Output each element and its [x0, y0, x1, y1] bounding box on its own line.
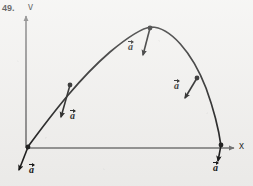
acceleration-label-5: a — [213, 162, 218, 173]
acceleration-label-3: a — [128, 41, 133, 52]
acceleration-vector-1 — [19, 147, 28, 170]
acceleration-vector-3 — [143, 28, 150, 55]
y-axis-label: v — [28, 1, 33, 12]
acceleration-label-1-text: a — [29, 165, 34, 175]
acceleration-label-1: a — [29, 164, 34, 175]
acceleration-label-4: a — [174, 80, 179, 91]
acceleration-label-4-text: a — [174, 81, 179, 91]
acceleration-label-2: a — [70, 110, 75, 121]
trajectory-diagram-svg — [0, 0, 253, 186]
projectile-motion-figure: 49. v x a a a a a — [0, 0, 253, 186]
x-axis-label: x — [239, 140, 244, 151]
acceleration-vector-4 — [185, 78, 197, 98]
acceleration-label-3-text: a — [128, 42, 133, 52]
acceleration-label-2-text: a — [70, 111, 75, 121]
trajectory-points — [26, 26, 224, 150]
problem-number: 49. — [2, 3, 15, 13]
acceleration-label-5-text: a — [213, 163, 218, 173]
